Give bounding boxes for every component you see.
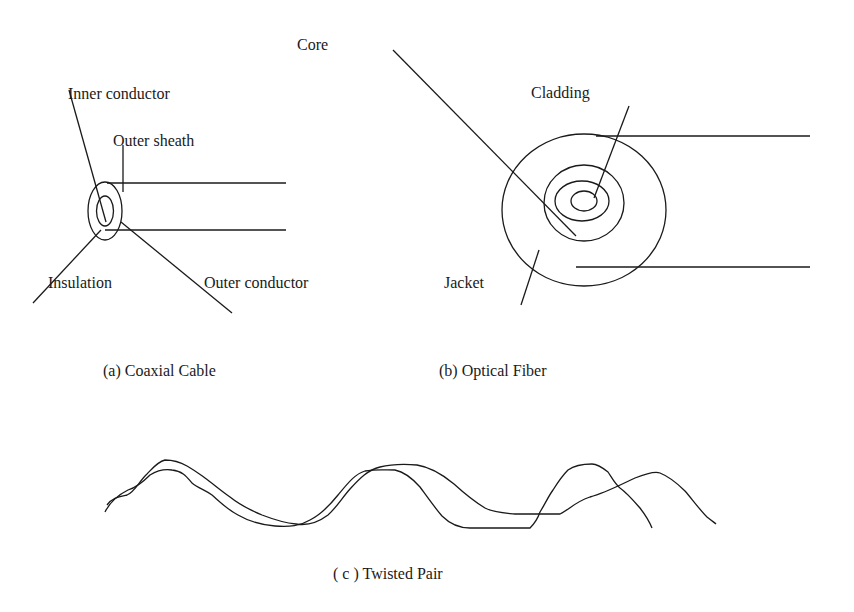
leader-insulation: [33, 230, 101, 303]
fiber-cladding-inner-ring: [555, 181, 609, 221]
fiber-jacket-ring: [502, 134, 666, 286]
label-cladding: Cladding: [531, 85, 590, 101]
coax-outer-ring: [88, 182, 122, 240]
label-core: Core: [297, 37, 328, 53]
label-jacket: Jacket: [444, 275, 484, 291]
leader-core: [393, 50, 576, 236]
twisted-pair-wire-2: [105, 464, 652, 528]
label-inner-conductor: Inner conductor: [68, 86, 170, 102]
label-outer-sheath: Outer sheath: [113, 133, 194, 149]
leader-cladding: [594, 106, 629, 198]
leader-inner-conductor: [69, 90, 106, 222]
leader-outer-conductor: [121, 222, 232, 313]
label-outer-conductor: Outer conductor: [204, 275, 308, 291]
caption-twisted-pair: ( c ) Twisted Pair: [333, 566, 443, 582]
fiber-core-ring: [571, 191, 597, 211]
leader-jacket: [521, 250, 539, 305]
caption-coaxial-cable: (a) Coaxial Cable: [103, 363, 216, 379]
coax-inner-ring: [97, 196, 114, 226]
optical-fiber-drawing: [393, 50, 810, 305]
label-insulation: Insulation: [48, 275, 112, 291]
twisted-pair-drawing: [105, 460, 716, 528]
caption-optical-fiber: (b) Optical Fiber: [439, 363, 547, 379]
fiber-cladding-outer-ring: [544, 165, 624, 241]
